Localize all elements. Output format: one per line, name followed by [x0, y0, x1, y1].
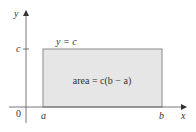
y-axis-label: y	[13, 8, 19, 19]
region-area-label: area = c(b − a)	[73, 75, 131, 87]
y-tick-label-c: c	[16, 43, 21, 54]
origin-label: 0	[16, 108, 21, 119]
area-diagram: y x 0 c a b y = c area = c(b − a)	[0, 0, 196, 132]
curve-label: y = c	[55, 36, 77, 47]
x-tick-label-b: b	[159, 110, 164, 121]
x-tick-label-a: a	[41, 110, 46, 121]
x-axis-label: x	[180, 110, 186, 121]
